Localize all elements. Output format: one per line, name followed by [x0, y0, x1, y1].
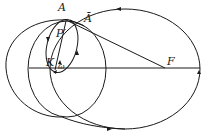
inner-circle — [28, 21, 106, 117]
large-orbit-ellipse — [50, 9, 200, 129]
arrow-top-icon — [116, 7, 121, 11]
arrow-small-left-icon — [46, 37, 50, 42]
label-f: F — [167, 56, 175, 67]
label-omega: ω — [58, 63, 65, 71]
label-p-prime: P′ — [56, 28, 66, 39]
line-a-f — [66, 20, 165, 68]
label-a-bar: Ā — [84, 13, 92, 24]
label-a: A — [58, 2, 66, 13]
label-k: K — [46, 57, 54, 68]
arrow-k-bottom-icon — [53, 70, 57, 74]
